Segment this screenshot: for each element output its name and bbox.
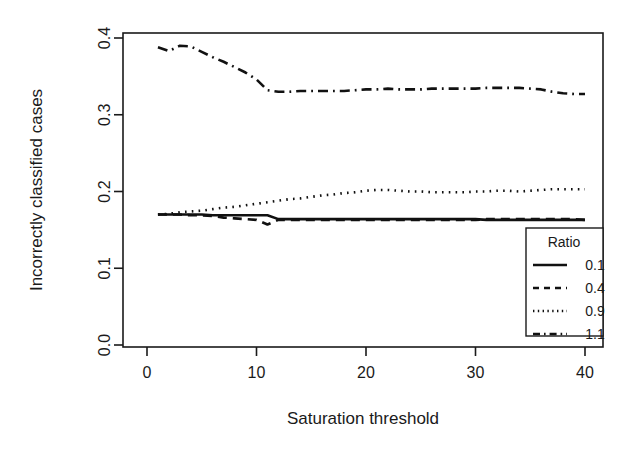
chart-legend: Ratio 0.10.40.91.1 bbox=[526, 228, 605, 342]
x-tick-label: 0 bbox=[143, 364, 152, 381]
y-tick-label: 0.4 bbox=[96, 27, 113, 49]
y-axis-title: Incorrectly classified cases bbox=[27, 89, 46, 291]
x-tick-label: 20 bbox=[357, 364, 375, 381]
x-tick-label: 40 bbox=[576, 364, 594, 381]
y-tick-label: 0.0 bbox=[96, 334, 113, 356]
line-chart: 010203040 0.00.10.20.30.4 Saturation thr… bbox=[0, 0, 633, 470]
chart-figure: 010203040 0.00.10.20.30.4 Saturation thr… bbox=[0, 0, 633, 470]
x-tick-label: 30 bbox=[467, 364, 485, 381]
legend-label-1-1: 1.1 bbox=[585, 326, 605, 342]
y-tick-label: 0.1 bbox=[96, 257, 113, 279]
x-axis-title: Saturation threshold bbox=[287, 409, 439, 428]
x-tick-label: 10 bbox=[248, 364, 266, 381]
legend-label-0-4: 0.4 bbox=[585, 280, 605, 296]
y-tick-label: 0.2 bbox=[96, 180, 113, 202]
legend-title: Ratio bbox=[548, 234, 581, 250]
legend-label-0-9: 0.9 bbox=[585, 303, 605, 319]
y-tick-label: 0.3 bbox=[96, 104, 113, 126]
legend-label-0-1: 0.1 bbox=[585, 257, 605, 273]
